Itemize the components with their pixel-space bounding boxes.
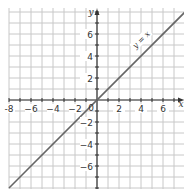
x-axis-label: x <box>178 99 183 109</box>
y-tick-label: 4 <box>87 52 93 62</box>
y-tick-label: −2 <box>80 118 93 128</box>
x-tick-label: −2 <box>68 104 81 114</box>
y-tick-label: −6 <box>80 162 94 172</box>
y-axis-label: y <box>87 7 94 17</box>
x-tick-label: −4 <box>46 104 60 114</box>
y-tick-label: −4 <box>80 140 94 150</box>
x-tick-label: 6 <box>160 104 166 114</box>
origin-label: 0 <box>88 103 94 113</box>
x-tick-label: -8 <box>5 104 14 114</box>
x-tick-label: 2 <box>116 104 122 114</box>
coordinate-plane: y = x -8−6−4−2246642−2−4−60xy <box>0 0 184 189</box>
y-tick-label: 6 <box>87 30 93 40</box>
y-tick-label: 2 <box>87 74 93 84</box>
x-tick-label: −6 <box>24 104 38 114</box>
x-tick-label: 4 <box>138 104 144 114</box>
